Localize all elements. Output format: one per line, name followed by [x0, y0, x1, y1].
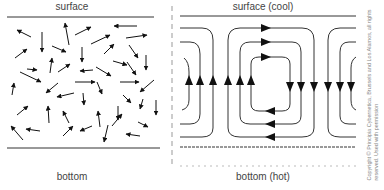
arrow-up-icon [209, 75, 217, 85]
right-panel [180, 16, 356, 166]
arrow-up-icon [236, 75, 244, 85]
arrow-up-icon [247, 75, 255, 85]
arrow-left-icon [265, 120, 275, 128]
arrow-left-icon [265, 107, 275, 115]
arrow-up-icon [196, 75, 204, 85]
arrow-right-icon [261, 38, 271, 46]
arrow-right-icon [261, 24, 271, 32]
arrow-right-icon [261, 53, 271, 61]
random-motion-arrows [11, 23, 156, 142]
arrow-left-icon [265, 133, 275, 141]
arrow-down-icon [324, 82, 332, 92]
copyright-line-2: reserved. Used with permission [373, 10, 380, 181]
copyright-line-1: Copyright © Principia Cybernetica, Bruss… [366, 10, 373, 181]
arrow-down-icon [286, 82, 294, 92]
left-panel [7, 17, 160, 148]
arrow-down-icon [310, 82, 318, 92]
arrow-up-icon [185, 75, 193, 85]
copyright-notice: Copyright © Principia Cybernetica, Bruss… [366, 10, 380, 181]
arrow-down-icon [347, 82, 355, 92]
arrow-down-icon [297, 82, 305, 92]
diagram-canvas [0, 0, 384, 190]
arrow-up-icon [224, 75, 232, 85]
arrow-down-icon [336, 82, 344, 92]
